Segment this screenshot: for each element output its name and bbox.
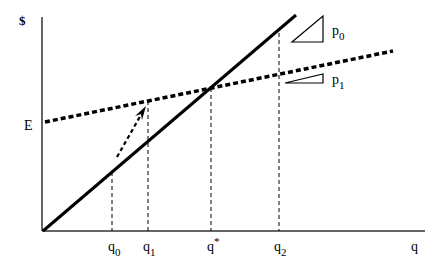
- p1-slope-triangle: [285, 74, 323, 83]
- y-axis-label: $: [19, 14, 26, 27]
- p1-label: p1: [332, 73, 345, 87]
- arrow-head-icon: [135, 106, 146, 120]
- q2-label: q2: [274, 240, 287, 254]
- qstar-label: q*: [207, 240, 220, 254]
- p0-slope-triangle: [292, 16, 323, 42]
- p0-label: p0: [332, 24, 345, 38]
- x-axis-label: q: [411, 240, 418, 254]
- e-label: E: [24, 119, 33, 133]
- q0-label: q0: [108, 240, 121, 254]
- p0-line: [43, 15, 296, 231]
- q1-label: q1: [143, 240, 156, 254]
- diagram-canvas: [0, 0, 445, 272]
